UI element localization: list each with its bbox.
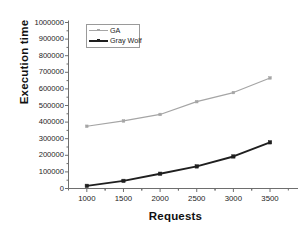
series-marker-ga [86,125,89,128]
legend-item-ga: GA [89,26,120,36]
series-marker-ga [195,100,198,103]
chart-legend: GA Gray Wolf [86,24,140,48]
legend-swatch-gray-wolf [89,37,108,45]
series-marker-gray-wolf [85,184,88,187]
series-marker-gray-wolf [122,179,125,182]
series-marker-ga [269,77,272,80]
series-marker-ga [232,91,235,94]
series-marker-gray-wolf [268,141,271,144]
series-line-ga [87,78,270,126]
series-marker-gray-wolf [195,165,198,168]
series-marker-ga [159,113,162,116]
series-marker-gray-wolf [232,155,235,158]
legend-item-gray-wolf: Gray Wolf [89,36,142,46]
legend-label-gray-wolf: Gray Wolf [110,37,142,45]
legend-swatch-ga [89,27,108,35]
legend-label-ga: GA [110,27,120,35]
series-line-gray-wolf [87,142,270,185]
legend-marker-ga [97,29,100,32]
legend-marker-gray-wolf [97,39,100,42]
axis-ticks [65,23,288,193]
plot-area [0,0,303,236]
data-series-group [85,77,272,188]
series-marker-ga [122,120,125,123]
execution-time-line-chart: Execution time Requests 0100000200000300… [0,0,303,236]
series-marker-gray-wolf [158,172,161,175]
